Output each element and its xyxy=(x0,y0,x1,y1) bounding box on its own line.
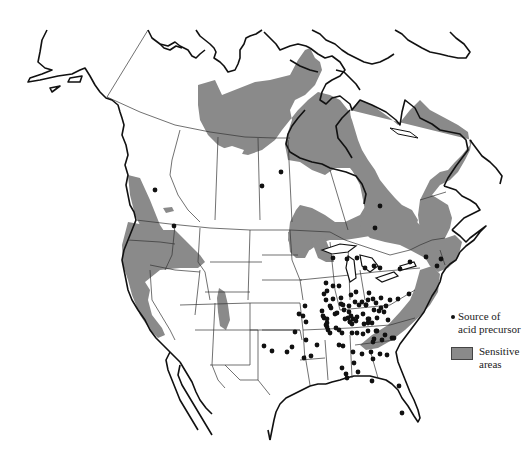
source-dot xyxy=(341,344,346,349)
source-dot xyxy=(385,353,390,358)
source-dot xyxy=(325,317,330,322)
source-dot xyxy=(303,304,308,309)
legend-item-sensitive: Sensitive areas xyxy=(451,345,527,371)
source-dot xyxy=(407,292,412,297)
source-dot xyxy=(374,301,379,306)
source-dot xyxy=(397,384,402,389)
source-dot xyxy=(293,330,298,335)
source-dot xyxy=(344,372,349,377)
source-dot xyxy=(355,331,360,336)
source-dot-icon xyxy=(451,315,455,319)
source-dot xyxy=(304,338,309,343)
source-dot xyxy=(386,318,391,323)
source-dot xyxy=(370,321,375,326)
sensitive-areas xyxy=(122,48,472,350)
source-dot xyxy=(382,310,387,315)
source-dot xyxy=(350,322,355,327)
source-dot xyxy=(326,328,331,333)
source-dot xyxy=(362,322,367,327)
source-dot xyxy=(354,290,359,295)
legend-label-sensitive: Sensitive areas xyxy=(479,345,519,371)
source-dot xyxy=(383,333,388,338)
source-dot xyxy=(297,312,302,317)
source-dot xyxy=(371,297,376,302)
map-canvas xyxy=(0,0,527,450)
source-dot xyxy=(339,296,344,301)
source-dot xyxy=(366,298,371,303)
source-dot xyxy=(354,319,359,324)
source-dot xyxy=(337,284,342,289)
source-dot xyxy=(324,323,329,328)
source-dot xyxy=(378,204,383,209)
source-dot xyxy=(369,350,374,355)
source-dot xyxy=(392,336,397,341)
source-dot xyxy=(345,257,350,262)
source-dot xyxy=(324,281,329,286)
source-dot xyxy=(290,345,295,350)
source-dot xyxy=(379,296,384,301)
source-dot xyxy=(333,312,338,317)
source-dot xyxy=(331,256,336,261)
legend-item-source: Source of acid precursor xyxy=(451,310,527,336)
source-dot xyxy=(329,306,334,311)
source-dot xyxy=(347,304,352,309)
source-dot xyxy=(380,338,385,343)
source-dot xyxy=(372,337,377,342)
source-dot xyxy=(372,308,377,313)
source-dot xyxy=(309,354,314,359)
source-dot xyxy=(270,349,275,354)
source-dot xyxy=(396,297,401,302)
source-dot xyxy=(350,331,355,336)
source-dot xyxy=(384,304,389,309)
source-dot xyxy=(331,284,336,289)
source-dot xyxy=(378,352,383,357)
source-dot xyxy=(388,298,393,303)
source-dot xyxy=(357,303,362,308)
source-dot xyxy=(322,292,327,297)
source-dot xyxy=(285,350,290,355)
source-dot xyxy=(320,309,325,314)
source-dot xyxy=(340,366,345,371)
source-dot xyxy=(343,317,348,322)
source-dot xyxy=(353,300,358,305)
source-dot xyxy=(304,320,309,325)
source-dot xyxy=(349,293,354,298)
source-dot xyxy=(260,184,265,189)
source-dot xyxy=(352,361,357,366)
source-dot xyxy=(378,266,383,271)
source-dot xyxy=(435,264,440,269)
source-dot xyxy=(424,255,429,260)
source-dot xyxy=(373,226,378,231)
source-dot xyxy=(355,256,360,261)
source-dot xyxy=(341,303,346,308)
legend-label-source: Source of acid precursor xyxy=(458,310,521,336)
source-dot xyxy=(367,291,372,296)
source-dot xyxy=(279,170,284,175)
source-dot xyxy=(372,264,377,269)
source-dot xyxy=(364,303,369,308)
source-dot xyxy=(408,260,413,265)
source-dot xyxy=(340,331,345,336)
source-dot xyxy=(439,257,444,262)
source-dot xyxy=(172,224,177,229)
source-dot xyxy=(360,352,365,357)
source-dot xyxy=(321,314,326,319)
source-dot xyxy=(351,350,356,355)
source-dot xyxy=(355,315,360,320)
source-dot xyxy=(356,370,361,375)
source-dot xyxy=(400,411,405,416)
source-dot xyxy=(366,329,371,334)
source-dot xyxy=(398,267,403,272)
source-dot xyxy=(342,308,347,313)
sensitive-area-swatch-icon xyxy=(451,347,473,360)
source-dot xyxy=(324,298,329,303)
legend-sensitive-line2: areas xyxy=(479,358,502,370)
source-dot xyxy=(379,306,384,311)
source-dot xyxy=(302,356,307,361)
source-dot xyxy=(361,312,366,317)
source-dot xyxy=(337,343,342,348)
legend-source-line2: acid precursor xyxy=(458,323,521,335)
source-dot xyxy=(375,329,380,334)
source-dot xyxy=(363,266,368,271)
source-dot xyxy=(361,332,366,337)
